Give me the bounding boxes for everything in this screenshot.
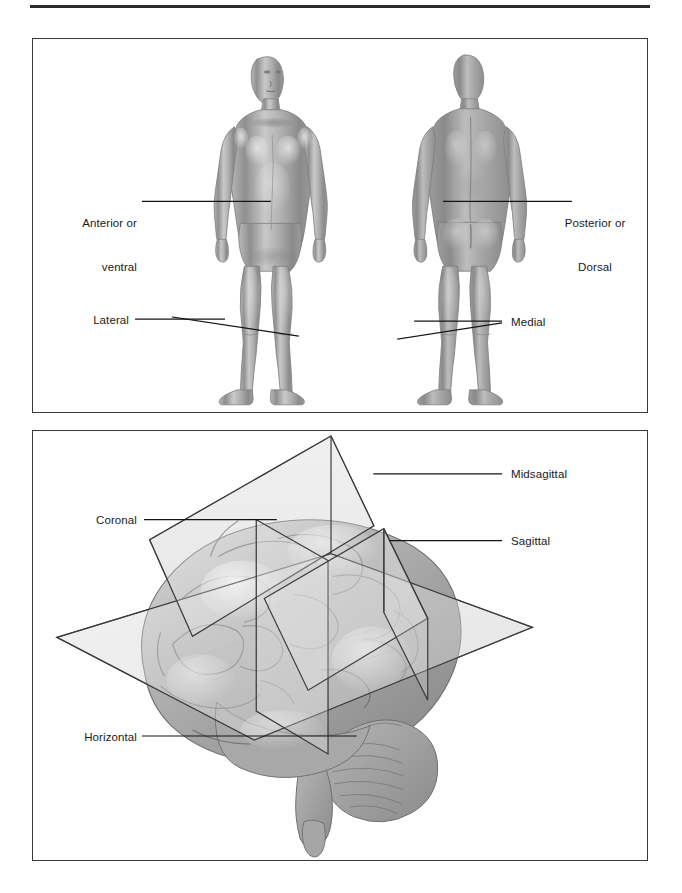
label-horizontal: Horizontal <box>41 730 137 745</box>
anterior-figure-art <box>214 57 327 405</box>
posterior-figure-art <box>412 55 526 405</box>
brain-planes-artwork <box>33 431 647 860</box>
label-anterior-line2: ventral <box>41 260 137 275</box>
label-posterior: Posterior or Dorsal <box>547 187 643 303</box>
label-midsagittal: Midsagittal <box>511 467 631 482</box>
label-sagittal: Sagittal <box>511 534 631 549</box>
label-medial: Medial <box>511 315 601 330</box>
label-lateral: Lateral <box>43 313 129 328</box>
header-rule <box>30 5 650 8</box>
page-root: Anterior or ventral Posterior or Dorsal … <box>0 0 682 893</box>
label-anterior-line1: Anterior or <box>41 216 137 231</box>
label-anterior: Anterior or ventral <box>41 187 137 303</box>
label-posterior-line1: Posterior or <box>547 216 643 231</box>
label-posterior-line2: Dorsal <box>547 260 643 275</box>
directional-terms-panel: Anterior or ventral Posterior or Dorsal … <box>32 38 648 413</box>
label-coronal: Coronal <box>45 513 137 528</box>
sectional-planes-panel: Coronal Midsagittal Sagittal Horizontal <box>32 430 648 861</box>
